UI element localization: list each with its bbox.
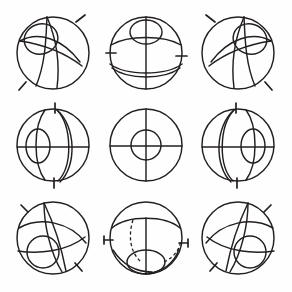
sphere-cell-r1c2 [106,17,187,89]
tall-arc-right [57,110,69,181]
dashed-curve-left [130,220,141,262]
tall-arc-right [246,110,255,180]
nodal-arc-b [230,203,248,272]
sphere-cell-r2c3 [202,103,274,188]
tick-upper-left [21,205,28,212]
figure-root [0,0,292,292]
sphere-cell-r3c1 [17,202,89,274]
tick-upper-right [76,15,85,22]
tall-arc-left [36,110,45,180]
tick-upper-right [264,205,271,212]
tick-upper-left [206,15,215,22]
tick-lower-left [19,82,26,90]
sphere-cell-r3c2 [104,202,188,274]
tall-arc-left [222,110,234,181]
sphere-grid-figure [0,0,292,292]
sphere-cell-r2c1 [17,103,89,188]
nodal-arc-b [244,17,255,86]
small-ellipse-upper-left [20,19,62,58]
sphere-cell-r1c1 [17,15,89,90]
small-ellipse-upper-right [229,19,271,58]
small-ellipse-right [241,129,265,163]
sphere-outline [202,109,274,181]
nodal-arc-b [44,203,62,272]
sphere-cell-r3c3 [202,202,274,274]
sphere-cell-r2c2 [110,109,182,181]
small-ellipse-left [26,129,50,163]
sphere-outline [17,109,89,181]
nodal-arc-b [36,17,47,86]
sphere-cell-r1c3 [202,15,274,90]
tick-lower-right [265,82,272,90]
